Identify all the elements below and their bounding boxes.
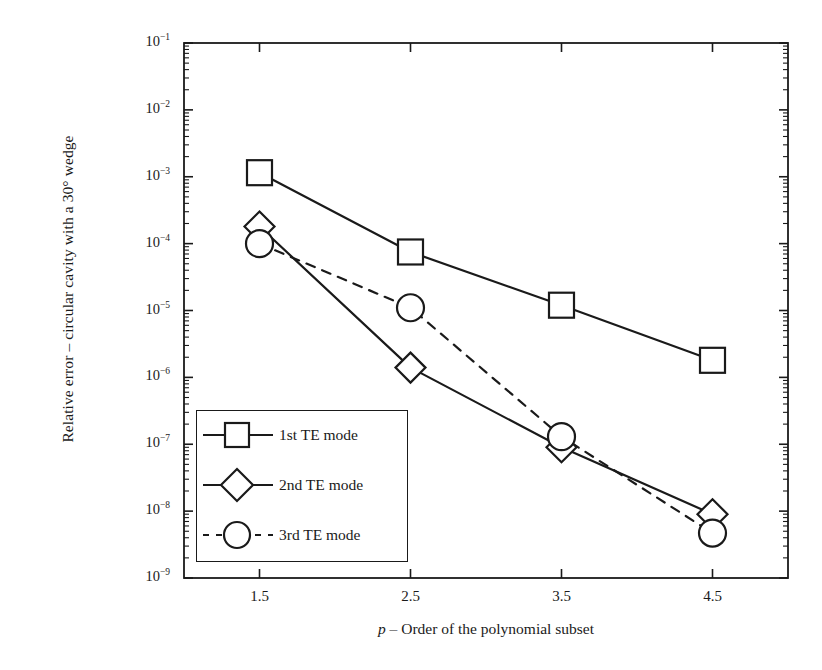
y-axis-tick-label: 10−2: [62, 99, 170, 117]
legend-swatch-circle-dashed: [197, 515, 279, 555]
y-tick-exponent: −9: [160, 567, 170, 577]
x-axis-label-italic: p: [378, 620, 386, 637]
marker-circle-3rd-te-mode: [397, 294, 424, 321]
y-tick-exponent: −7: [160, 433, 170, 443]
legend-label-2nd-te-mode: 2nd TE mode: [279, 476, 363, 494]
chart-figure: Relative error – circular cavity with a …: [0, 0, 822, 670]
y-tick-exponent: −6: [160, 366, 170, 376]
y-axis-label: Relative error – circular cavity with a …: [59, 9, 77, 569]
marker-circle-3rd-te-mode: [548, 423, 575, 450]
marker-circle-3rd-te-mode: [699, 520, 726, 547]
legend: 1st TE mode 2nd TE mode 3rd TE mode: [196, 410, 408, 562]
marker-square-1st-te-mode: [700, 348, 725, 373]
marker-circle-3rd-te-mode: [246, 230, 273, 257]
series-line-1st-te-mode: [260, 173, 713, 361]
x-axis-tick-label: 2.5: [371, 588, 451, 605]
y-axis-tick-label: 10−5: [62, 300, 170, 318]
y-tick-mantissa: 10: [145, 33, 160, 49]
marker-square-1st-te-mode: [398, 239, 423, 264]
y-tick-exponent: −1: [160, 32, 170, 42]
x-axis-tick-label: 3.5: [522, 588, 602, 605]
x-axis-tick-label: 1.5: [220, 588, 300, 605]
y-tick-mantissa: 10: [145, 367, 160, 383]
legend-item-1st-te-mode: 1st TE mode: [197, 415, 409, 455]
y-axis-tick-label: 10−9: [62, 567, 170, 585]
legend-swatch-diamond-solid: [197, 465, 279, 505]
y-tick-mantissa: 10: [145, 167, 160, 183]
y-tick-exponent: −5: [160, 300, 170, 310]
y-tick-mantissa: 10: [145, 233, 160, 249]
y-axis-tick-label: 10−3: [62, 166, 170, 184]
marker-square-1st-te-mode: [549, 293, 574, 318]
y-tick-exponent: −3: [160, 166, 170, 176]
y-axis-tick-label: 10−7: [62, 433, 170, 451]
y-axis-tick-label: 10−1: [62, 32, 170, 50]
y-tick-mantissa: 10: [145, 434, 160, 450]
y-tick-exponent: −2: [160, 99, 170, 109]
y-tick-exponent: −4: [160, 233, 170, 243]
y-axis-tick-label: 10−6: [62, 366, 170, 384]
y-tick-mantissa: 10: [145, 568, 160, 584]
legend-item-2nd-te-mode: 2nd TE mode: [197, 465, 409, 505]
x-axis-label-rest: – Order of the polynomial subset: [386, 620, 594, 637]
legend-swatch-square-solid: [197, 415, 279, 455]
y-tick-mantissa: 10: [145, 300, 160, 316]
x-axis-label: p – Order of the polynomial subset: [184, 620, 788, 638]
y-tick-mantissa: 10: [145, 501, 160, 517]
marker-square-1st-te-mode: [247, 160, 272, 185]
y-tick-exponent: −8: [160, 500, 170, 510]
x-axis-tick-label: 4.5: [673, 588, 753, 605]
y-axis-tick-label: 10−8: [62, 500, 170, 518]
legend-label-1st-te-mode: 1st TE mode: [279, 426, 358, 444]
legend-item-3rd-te-mode: 3rd TE mode: [197, 515, 409, 555]
y-axis-tick-label: 10−4: [62, 233, 170, 251]
y-tick-mantissa: 10: [145, 100, 160, 116]
legend-label-3rd-te-mode: 3rd TE mode: [279, 526, 361, 544]
